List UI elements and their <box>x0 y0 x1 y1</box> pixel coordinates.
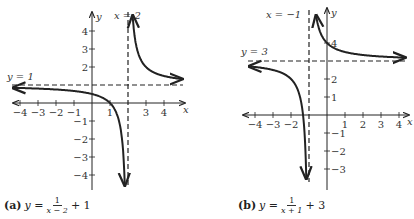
x-tick-label: −4 <box>248 119 263 130</box>
x-tick-label: −2 <box>49 107 64 118</box>
y-tick-label: −2 <box>73 134 88 145</box>
horizontal-asymptote-label: y = 3 <box>240 46 268 57</box>
curve-right-branch <box>133 16 182 80</box>
y-tick-label: −1 <box>73 116 88 127</box>
x-tick-label: −3 <box>266 119 281 130</box>
x-tick-label: 3 <box>378 119 384 130</box>
horizontal-asymptote-label: y = 1 <box>6 71 34 82</box>
x-tick-label: 1 <box>107 107 113 118</box>
y-tick-label: 1 <box>331 92 337 103</box>
chart-a: xy−4−3−2−1134432−1−2−3−4x = 2y = 1 <box>6 10 189 190</box>
x-tick-label: 4 <box>396 119 402 130</box>
caption-b-tail: + 3 <box>305 199 325 212</box>
caption-b: (b) y = 1 x + 1 + 3 <box>238 196 325 215</box>
y-axis-label: y <box>95 11 102 22</box>
y-axis-label: y <box>330 7 337 18</box>
x-tick-label: 3 <box>143 107 149 118</box>
x-tick-label: −2 <box>284 119 299 130</box>
x-axis-label: x <box>183 104 189 115</box>
caption-a-lhs: y = <box>25 199 44 212</box>
caption-b-fraction: 1 x + 1 <box>281 196 302 215</box>
vertical-asymptote-label: x = −1 <box>266 9 301 20</box>
y-tick-label: −1 <box>331 128 346 139</box>
caption-a-label: (a) <box>4 199 22 212</box>
y-tick-label: 2 <box>331 74 337 85</box>
caption-a: (a) y = 1 x − 2 + 1 <box>4 196 91 215</box>
x-axis-label: x <box>407 116 413 127</box>
y-tick-label: −3 <box>331 164 346 175</box>
caption-a-fraction: 1 x − 2 <box>46 196 67 215</box>
caption-b-label: (b) <box>238 199 256 212</box>
y-tick-label: −2 <box>331 146 346 157</box>
y-tick-label: 4 <box>82 26 88 37</box>
y-tick-label: 3 <box>82 44 88 55</box>
x-tick-label: −3 <box>31 107 46 118</box>
y-tick-label: −3 <box>73 152 88 163</box>
curve-right-branch <box>316 15 405 58</box>
chart-b: xy−4−3−21234421−1−2−3x = −1y = 3 <box>240 7 413 190</box>
caption-b-lhs: y = <box>259 199 278 212</box>
graphs-canvas: xy−4−3−2−1134432−1−2−3−4x = 2y = 1xy−4−3… <box>0 0 414 219</box>
caption-a-tail: + 1 <box>71 199 91 212</box>
y-tick-label: −4 <box>73 170 88 181</box>
y-tick-label: 2 <box>82 62 88 73</box>
x-tick-label: −4 <box>13 107 28 118</box>
x-tick-label: 4 <box>161 107 167 118</box>
x-tick-label: 2 <box>360 119 366 130</box>
vertical-asymptote-label: x = 2 <box>114 10 141 21</box>
curve-left-branch <box>13 88 125 186</box>
